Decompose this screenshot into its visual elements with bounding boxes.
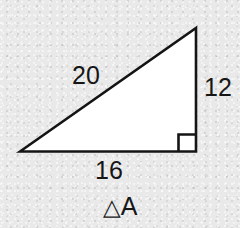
figure-caption-name: A	[121, 192, 138, 220]
side-label-vertical-leg: 12	[204, 75, 232, 100]
side-label-hypotenuse: 20	[72, 63, 100, 88]
figure-caption: △A	[0, 194, 240, 219]
side-label-base-leg: 16	[95, 158, 123, 183]
triangle-glyph-icon: △	[103, 194, 121, 220]
right-triangle-shape	[20, 28, 196, 152]
triangle-figure: 20 12 16 △A	[0, 0, 240, 228]
